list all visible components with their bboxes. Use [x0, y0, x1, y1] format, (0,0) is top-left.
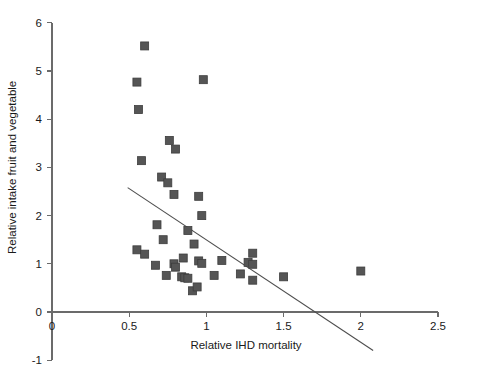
data-point-marker [141, 42, 149, 50]
data-point-marker [138, 157, 146, 165]
x-tick-label: 0.5 [121, 320, 137, 332]
data-point-marker [134, 106, 142, 114]
data-point-marker [210, 271, 218, 279]
data-point-marker [193, 283, 201, 291]
data-point-marker [172, 145, 180, 153]
data-point-marker [133, 78, 141, 86]
data-point-marker [198, 259, 206, 267]
data-point-marker [236, 270, 244, 278]
data-point-marker [280, 273, 288, 281]
data-point-marker [184, 227, 192, 235]
data-point-marker [190, 240, 198, 248]
data-point-marker [184, 274, 192, 282]
data-point-marker [218, 256, 226, 264]
y-tick-label: 5 [36, 65, 42, 77]
y-tick-label: 0 [36, 306, 42, 318]
data-point-marker [141, 250, 149, 258]
data-point-marker [249, 276, 257, 284]
data-point-marker [179, 254, 187, 262]
data-point-marker [153, 221, 161, 229]
data-point-marker [164, 179, 172, 187]
y-tick-label: 6 [36, 17, 42, 29]
chart-canvas: 00.511.522.5-10123456Relative IHD mortal… [0, 0, 477, 371]
data-point-marker [165, 136, 173, 144]
y-tick-label: 3 [36, 161, 42, 173]
x-tick-label: 1.5 [276, 320, 292, 332]
x-axis-title: Relative IHD mortality [190, 339, 301, 351]
x-tick-label: 1 [203, 320, 209, 332]
data-point-marker [249, 260, 257, 268]
data-point-marker [170, 190, 178, 198]
data-point-marker [172, 263, 180, 271]
x-tick-label: 2.5 [430, 320, 446, 332]
data-point-marker [159, 236, 167, 244]
data-point-marker [195, 192, 203, 200]
y-tick-label: -1 [32, 354, 42, 366]
data-point-marker [198, 212, 206, 220]
regression-line [128, 188, 373, 351]
y-tick-label: 1 [36, 258, 42, 270]
data-point-marker [133, 246, 141, 254]
data-point-marker [162, 271, 170, 279]
data-point-marker [249, 249, 257, 257]
data-point-marker [151, 261, 159, 269]
y-axis-title: Relative intake fruit and vegetable [6, 81, 18, 254]
x-tick-label: 2 [358, 320, 364, 332]
x-tick-label: 0 [49, 320, 55, 332]
scatter-plot-figure: 00.511.522.5-10123456Relative IHD mortal… [0, 0, 477, 371]
y-tick-label: 4 [36, 113, 43, 125]
y-tick-label: 2 [36, 210, 42, 222]
data-point-marker [199, 76, 207, 84]
data-point-marker [357, 267, 365, 275]
